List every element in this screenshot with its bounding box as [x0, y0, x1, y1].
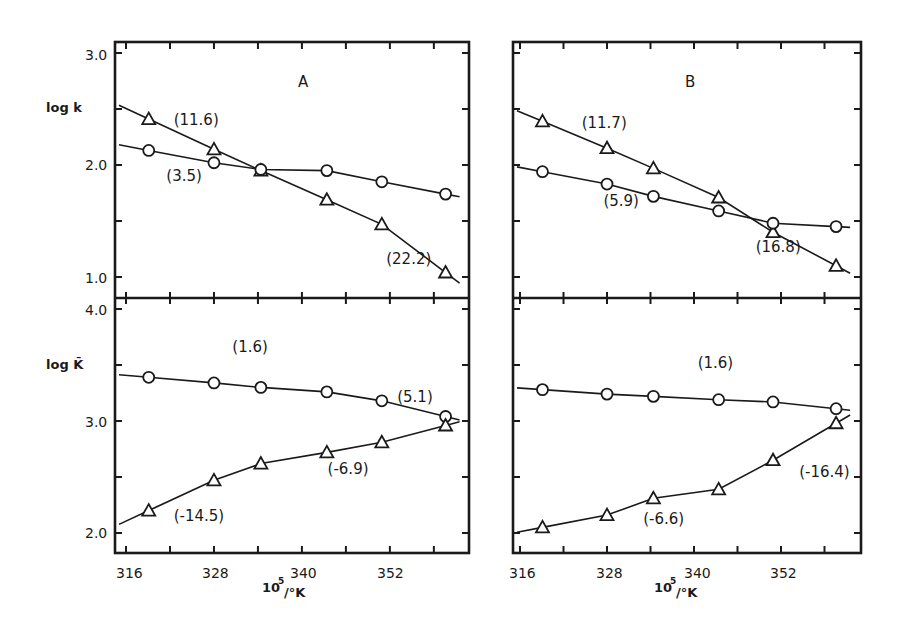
slope-annotation: (-6.9) — [328, 460, 369, 478]
triangle-marker-icon — [207, 474, 220, 486]
y-axis-label-top: log k — [46, 100, 82, 115]
slope-annotation: (11.7) — [582, 114, 627, 132]
x-tick-label-a: 328 — [202, 565, 229, 581]
circle-marker-icon — [602, 389, 613, 400]
triangle-marker-icon — [320, 193, 333, 205]
triangle-marker-icon — [207, 143, 220, 155]
circle-marker-icon — [255, 164, 266, 175]
x-tick-label-b: 340 — [684, 565, 711, 581]
y-tick-label: 1.0 — [85, 270, 107, 286]
slope-annotation: (-6.6) — [643, 510, 684, 528]
triangle-marker-icon — [142, 504, 155, 515]
circle-marker-icon — [768, 396, 779, 407]
circle-marker-icon — [648, 191, 659, 202]
svg-text:/°K: /°K — [676, 585, 698, 600]
x-tick-label-a: 352 — [377, 565, 404, 581]
triangle-marker-icon — [767, 454, 780, 466]
x-tick-label-b: 328 — [596, 565, 623, 581]
circle-marker-icon — [602, 179, 613, 190]
triangle-marker-icon — [712, 483, 725, 495]
circle-marker-icon — [143, 372, 154, 383]
chart-figure: (11.6)(3.5)(22.2)(11.7)(5.9)(16.8)(1.6)(… — [0, 0, 901, 636]
y-tick-label: 4.0 — [85, 302, 107, 318]
svg-text:/°K: /°K — [284, 585, 306, 600]
series-line-circle — [517, 388, 850, 410]
y-tick-label: 2.0 — [85, 525, 107, 541]
triangle-marker-icon — [712, 191, 725, 203]
x-tick-label-a: 316 — [116, 565, 143, 581]
slope-annotation: (-16.4) — [799, 463, 850, 481]
triangle-marker-icon — [536, 115, 549, 127]
x-tick-label-a: 340 — [290, 565, 317, 581]
series-layer: (11.6)(3.5)(22.2)(11.7)(5.9)(16.8)(1.6)(… — [119, 105, 850, 532]
slope-annotation: (1.6) — [698, 354, 734, 372]
circle-marker-icon — [831, 221, 842, 232]
y-tick-label: 2.0 — [85, 157, 107, 173]
circle-marker-icon — [768, 218, 779, 229]
circle-marker-icon — [208, 377, 219, 388]
slope-annotation: (22.2) — [386, 250, 431, 268]
slope-annotation: (11.6) — [174, 111, 219, 129]
triangle-marker-icon — [647, 162, 660, 174]
panel-b-label: B — [685, 73, 695, 91]
circle-marker-icon — [376, 176, 387, 187]
triangle-marker-icon — [830, 417, 843, 429]
slope-annotation: (16.8) — [756, 238, 801, 256]
y-axis-label-bottom: log K̄ — [46, 357, 84, 372]
circle-marker-icon — [321, 386, 332, 397]
circle-marker-icon — [208, 157, 219, 168]
slope-annotation: (1.6) — [232, 338, 268, 356]
y-tick-label: 3.0 — [85, 414, 107, 430]
slope-annotation: (5.1) — [397, 388, 433, 406]
circle-marker-icon — [321, 165, 332, 176]
circle-marker-icon — [713, 394, 724, 405]
circle-marker-icon — [537, 166, 548, 177]
slope-annotation: (5.9) — [603, 192, 639, 210]
circle-marker-icon — [537, 384, 548, 395]
triangle-marker-icon — [142, 113, 155, 125]
panel-a-label: A — [298, 73, 309, 91]
triangle-marker-icon — [601, 142, 614, 154]
circle-marker-icon — [255, 382, 266, 393]
x-tick-label-b: 352 — [770, 565, 797, 581]
triangle-marker-icon — [439, 266, 452, 278]
series-line-circle — [517, 167, 850, 227]
slope-annotation: (-14.5) — [174, 507, 225, 525]
triangle-marker-icon — [601, 509, 614, 521]
circle-marker-icon — [440, 189, 451, 200]
y-tick-label: 3.0 — [85, 47, 107, 63]
circle-marker-icon — [648, 391, 659, 402]
triangle-marker-icon — [830, 259, 843, 271]
x-tick-label-b: 316 — [509, 565, 536, 581]
triangle-marker-icon — [375, 218, 388, 230]
circle-marker-icon — [831, 403, 842, 414]
circle-marker-icon — [143, 145, 154, 156]
series-line-triangle — [119, 422, 460, 525]
circle-marker-icon — [376, 395, 387, 406]
slope-annotation: (3.5) — [166, 167, 202, 185]
circle-marker-icon — [713, 205, 724, 216]
